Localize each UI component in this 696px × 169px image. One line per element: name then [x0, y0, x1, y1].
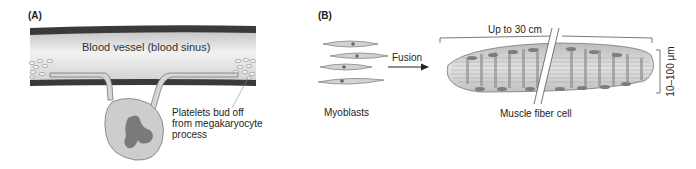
myoblasts-label: Myoblasts — [324, 107, 369, 118]
length-bracket — [440, 36, 652, 43]
muscle-fiber-cell — [447, 28, 653, 104]
fusion-arrow — [388, 64, 429, 71]
width-bracket — [656, 50, 660, 93]
myoblasts — [318, 41, 388, 84]
blood-vessel-label: Blood vessel (blood sinus) — [82, 42, 210, 53]
width-label: 10–100 μm — [665, 46, 676, 96]
platelets-callout-line-2: from megakaryocyte — [172, 118, 263, 129]
muscle-fiber-label: Muscle fiber cell — [500, 108, 572, 119]
platelets-callout-line-1: Platelets bud off — [172, 107, 244, 118]
megakaryocyte-cell — [105, 98, 164, 160]
panel-a-label: (A) — [28, 10, 42, 21]
platelets-callout-line-3: process — [172, 129, 207, 140]
panel-b-label: (B) — [318, 10, 332, 21]
fusion-label: Fusion — [392, 52, 422, 63]
length-label: Up to 30 cm — [488, 24, 542, 35]
diagram-canvas — [0, 0, 696, 169]
